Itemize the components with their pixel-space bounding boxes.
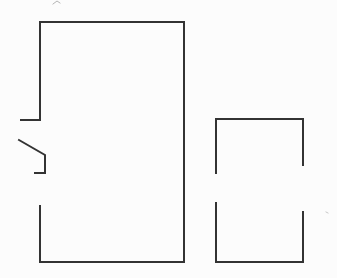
floor-plan-drawing <box>0 0 337 278</box>
scan-speck-right <box>326 212 328 213</box>
door-leaf <box>19 140 45 173</box>
small-room-upper-walls <box>216 119 303 173</box>
floor-plan-canvas <box>0 0 337 278</box>
large-room-outline <box>21 22 184 262</box>
small-room-lower-walls <box>216 203 303 262</box>
scan-mark-top <box>53 1 60 4</box>
